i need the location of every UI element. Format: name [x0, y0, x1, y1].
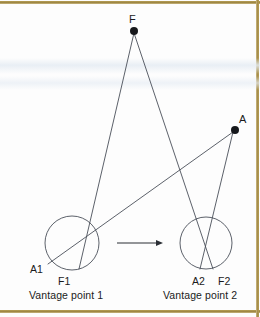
label-vp1-a1: A1	[30, 264, 43, 275]
caption-vantage-point-1: Vantage point 1	[29, 290, 103, 301]
near-point-dot	[231, 126, 239, 134]
label-vp2-a2: A2	[192, 276, 205, 287]
label-far-point: F	[129, 14, 136, 25]
ray-A-to-vantage1	[48, 132, 233, 264]
caption-vantage-point-2: Vantage point 2	[163, 290, 237, 301]
far-point-dot	[130, 27, 138, 35]
ray-F-to-vantage1	[79, 33, 134, 269]
label-vp1-f1: F1	[58, 276, 70, 287]
motion-arrow	[117, 240, 163, 246]
label-vp2-f2: F2	[218, 276, 230, 287]
ray-F-to-vantage2	[134, 33, 213, 269]
label-near-point: A	[239, 114, 246, 125]
figure-canvas: F A A1 F1 A2 F2 Vantage point 1 Vantage …	[0, 0, 260, 317]
eye-circle-vantage1	[45, 216, 99, 270]
